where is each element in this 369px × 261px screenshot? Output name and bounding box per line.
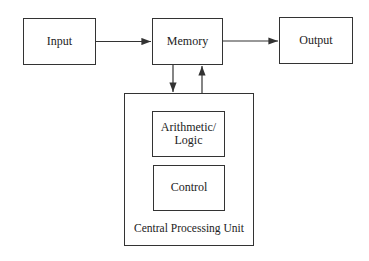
- memory-label: Memory: [167, 35, 208, 48]
- cpu-label: Central Processing Unit: [124, 222, 254, 234]
- output-label: Output: [299, 34, 332, 47]
- input-box: Input: [23, 18, 96, 65]
- memory-box: Memory: [152, 18, 223, 65]
- control-label: Control: [171, 181, 208, 194]
- control-box: Control: [153, 165, 225, 211]
- alu-label-line2: Logic: [175, 134, 203, 147]
- alu-box: Arithmetic/ Logic: [152, 111, 225, 157]
- output-box: Output: [279, 17, 353, 64]
- input-label: Input: [47, 35, 72, 48]
